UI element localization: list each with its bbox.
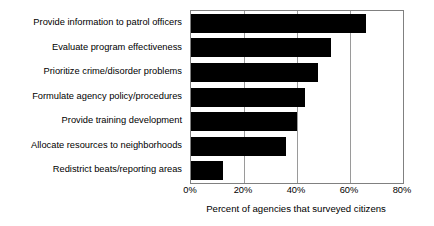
bar	[191, 112, 297, 131]
x-tick-label: 0%	[183, 185, 196, 195]
bar-chart: Provide information to patrol officers E…	[0, 0, 434, 226]
category-label: Evaluate program effectiveness	[52, 35, 182, 60]
bar-row	[191, 109, 403, 134]
category-label: Provide training development	[62, 108, 182, 133]
bar	[191, 88, 305, 107]
x-tick-label: 20%	[234, 185, 253, 195]
x-tick-label: 80%	[393, 185, 412, 195]
x-tick-label: 60%	[340, 185, 359, 195]
bar-row	[191, 60, 403, 85]
category-label: Redistrict beats/reporting areas	[53, 157, 182, 182]
category-label: Prioritize crime/disorder problems	[44, 59, 182, 84]
plot-area	[190, 10, 404, 184]
category-label: Formulate agency policy/procedures	[32, 84, 182, 109]
x-axis-title: Percent of agencies that surveyed citize…	[190, 203, 402, 214]
bar	[191, 63, 318, 82]
bar	[191, 137, 286, 156]
bar-row	[191, 85, 403, 110]
category-label: Allocate resources to neighborhoods	[31, 133, 182, 158]
x-tick-label: 40%	[287, 185, 306, 195]
bar-row	[191, 11, 403, 36]
bar-row	[191, 158, 403, 183]
category-label: Provide information to patrol officers	[33, 10, 182, 35]
bar	[191, 38, 331, 57]
x-axis: 0% 20% 40% 60% 80%	[0, 185, 434, 199]
bar-row	[191, 36, 403, 61]
category-axis: Provide information to patrol officers E…	[0, 10, 186, 182]
bar	[191, 14, 366, 33]
bar-row	[191, 134, 403, 159]
bar	[191, 161, 223, 180]
